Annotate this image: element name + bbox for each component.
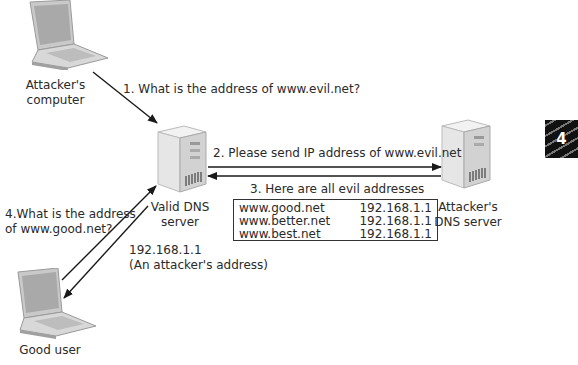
reply-note-label: (An attacker's address) bbox=[129, 258, 268, 273]
chapter-badge: 4 bbox=[545, 120, 578, 158]
evil-addresses-box: www.good.net 192.168.1.1 www.better.net … bbox=[233, 199, 438, 241]
step1-label: 1. What is the address of www.evil.net? bbox=[123, 82, 360, 97]
step4-label: 4.What is the address bbox=[5, 207, 136, 222]
step2-label: 2. Please send IP address of www.evil.ne… bbox=[213, 146, 461, 161]
step4-label-2: of www.good.net? bbox=[5, 222, 136, 237]
address-ip: 192.168.1.1 bbox=[359, 228, 432, 241]
address-row: www.best.net 192.168.1.1 bbox=[239, 228, 432, 241]
reply-ip-label: 192.168.1.1 bbox=[129, 243, 268, 258]
step3-label: 3. Here are all evil addresses bbox=[250, 182, 424, 197]
address-host: www.best.net bbox=[239, 228, 321, 241]
chapter-number: 4 bbox=[556, 130, 566, 148]
